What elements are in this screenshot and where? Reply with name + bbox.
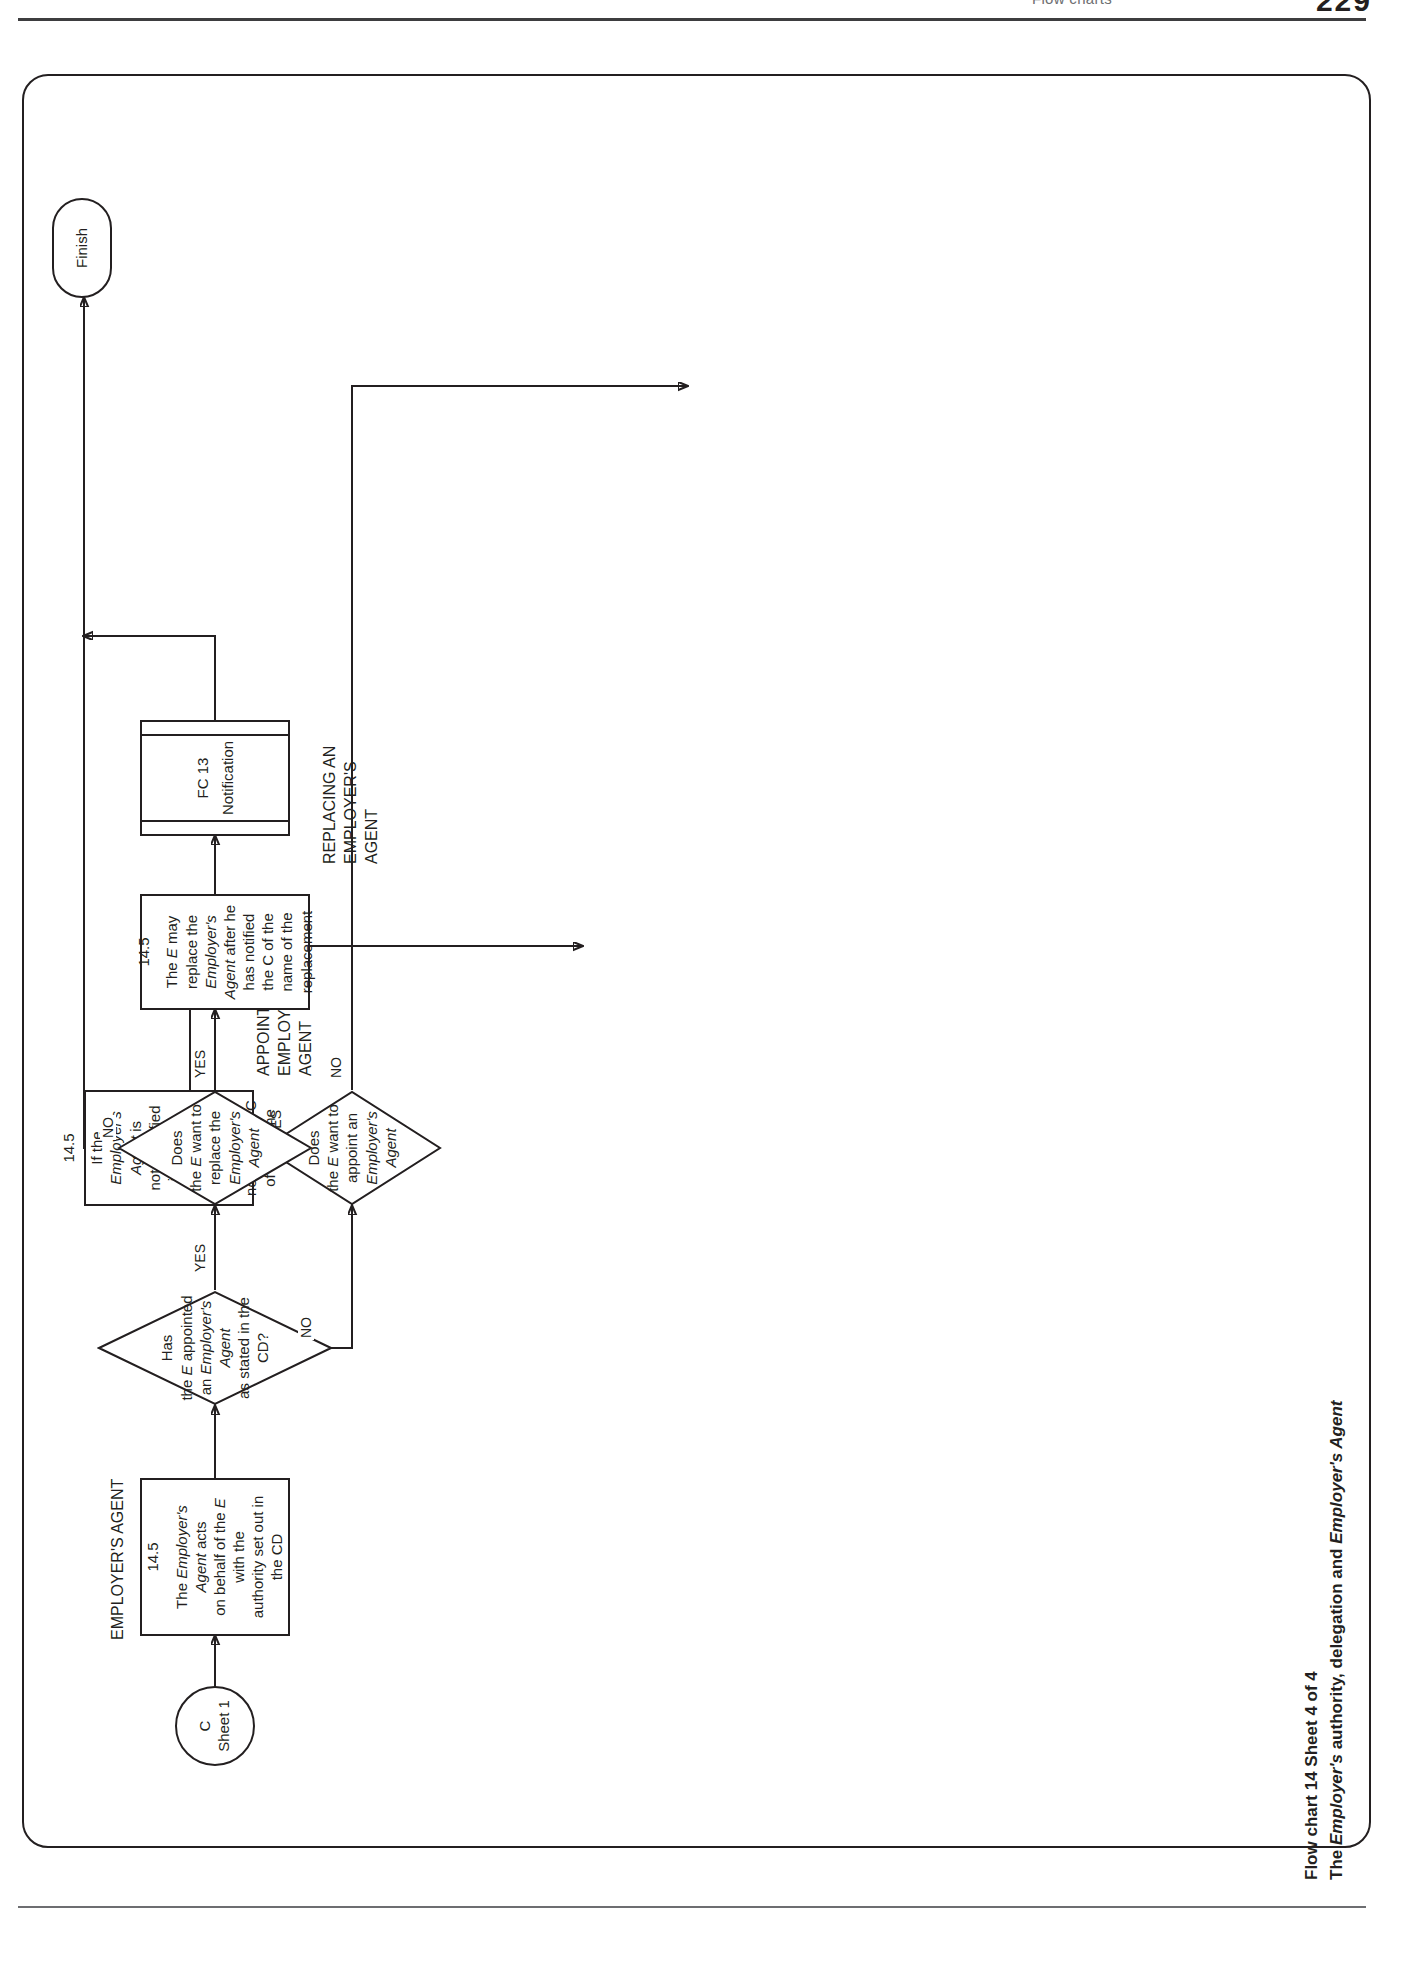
process-body: The Employer's Agent acts on behalf of t… [172, 1488, 287, 1626]
edge-label-yes-3: YES [192, 1048, 208, 1080]
predefined-label: Notification [218, 741, 237, 815]
edge-label-no-1: NO [298, 1315, 314, 1340]
connector-sheet-1: C Sheet 1 [175, 1686, 255, 1766]
edge-label-no-2: NO [328, 1055, 344, 1080]
process-ref: 14.5 [59, 1133, 78, 1162]
section-heading-replacing: REPLACING AN EMPLOYER'S AGENT [320, 746, 382, 864]
process-replace-employers-agent: 14.5 The E may replace the Employer's Ag… [140, 894, 310, 1010]
running-head-title: Flow charts [1032, 0, 1112, 7]
process-body: The E may replace the Employer's Agent a… [162, 904, 316, 1000]
connector-ref: C [196, 1721, 215, 1732]
terminator-label: Finish [72, 228, 91, 268]
page-number: 229 [1316, 0, 1372, 18]
flowchart-canvas: C Sheet 1 EMPLOYER'S AGENT 14.5 The Empl… [22, 146, 1312, 1846]
section-heading-employers-agent: EMPLOYER'S AGENT [108, 1479, 129, 1640]
terminator-finish: Finish [52, 198, 112, 298]
decision-label: Has the E appointed an Employer's Agent … [97, 1290, 333, 1406]
process-ref: 14.5 [134, 937, 153, 966]
edge-label-no-3: NO [100, 1115, 116, 1140]
caption-line-1: Flow chart 14 Sheet 4 of 4 [1300, 1120, 1325, 1880]
header-rule [18, 18, 1366, 21]
predefined-ref: FC 13 [193, 758, 212, 799]
process-employers-agent-acts: 14.5 The Employer's Agent acts on behalf… [140, 1478, 290, 1636]
decision-does-e-want-replace-agent: Does the E want to replace the Employer'… [117, 1090, 313, 1206]
decision-has-e-appointed-agent: Has the E appointed an Employer's Agent … [97, 1290, 333, 1406]
connector-label: Sheet 1 [215, 1700, 234, 1752]
caption-line-2: The Employer's authority, delegation and… [1325, 1120, 1350, 1880]
edge-label-yes-1: YES [192, 1242, 208, 1274]
process-ref: 14.5 [143, 1542, 162, 1571]
decision-label: Does the E want to replace the Employer'… [117, 1090, 313, 1206]
figure-caption: Flow chart 14 Sheet 4 of 4 The Employer'… [1300, 1120, 1349, 1880]
predefined-process-fc13-notification: FC 13 Notification [140, 720, 290, 836]
page-header: Flow charts 229 [0, 0, 1412, 30]
footer-rule [18, 1906, 1366, 1908]
